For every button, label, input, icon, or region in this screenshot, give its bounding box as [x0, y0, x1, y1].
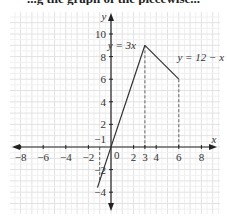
- y-tick-label: −4: [94, 186, 106, 198]
- series-lines: [97, 45, 178, 187]
- x-tick-label: 4: [153, 151, 159, 163]
- x-axis-arrow-left: [12, 144, 20, 150]
- x-tick-label: 2: [131, 151, 137, 163]
- x-tick-label: −6: [37, 151, 49, 163]
- y-tick-label: 8: [101, 51, 107, 63]
- x-tick-label: −4: [60, 151, 72, 163]
- y-tick-label: 10: [95, 28, 107, 40]
- annotation-label: y = 12 − x: [176, 51, 224, 63]
- x-tick-label: 8: [199, 151, 205, 163]
- x-tick-label: 3: [142, 151, 148, 163]
- x-tick-label: −2: [83, 151, 95, 163]
- y-tick-label: 2: [101, 118, 107, 130]
- minus-one-label: −1: [94, 133, 106, 145]
- chart: −8−6−4−224683−4−22468100−1xyy = 3xy = 12…: [0, 0, 227, 217]
- annotation-label: y = 3x: [107, 39, 136, 51]
- y-axis-arrow-down: [108, 203, 114, 211]
- y-axis-label: y: [101, 10, 107, 22]
- x-axis-label: x: [211, 133, 217, 145]
- y-tick-label: 4: [101, 96, 107, 108]
- x-tick-label: 6: [176, 151, 182, 163]
- y-tick-label: 6: [101, 73, 107, 85]
- origin-label: 0: [114, 149, 120, 161]
- x-tick-label: −8: [15, 151, 27, 163]
- y-tick-label: −2: [94, 164, 106, 176]
